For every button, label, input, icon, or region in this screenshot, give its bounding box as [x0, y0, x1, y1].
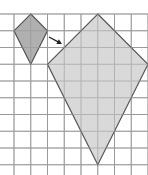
kite-shapes — [0, 14, 148, 175]
diagram-svg — [0, 0, 148, 175]
kite-dilation-diagram — [0, 0, 148, 175]
arrow-shaft — [49, 37, 59, 42]
arrow-icon — [49, 37, 62, 44]
